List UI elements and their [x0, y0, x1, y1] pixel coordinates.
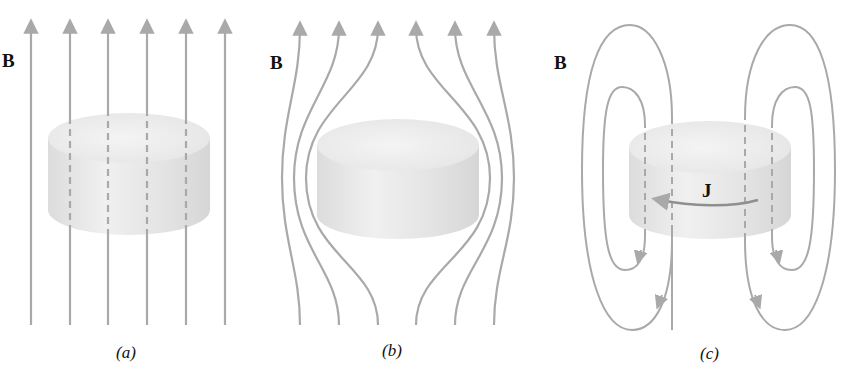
cylinder-b [317, 119, 479, 239]
field-label-a: B [2, 50, 15, 72]
panel-c [582, 25, 835, 330]
field-label-c: B [554, 52, 567, 74]
caption-b: (b) [382, 341, 402, 361]
figure: B (a) B (b) B J (c) [0, 0, 857, 373]
current-label-j: J [702, 180, 712, 202]
caption-a: (a) [116, 343, 136, 363]
panel-b [282, 28, 514, 325]
field-label-b: B [270, 52, 283, 74]
diagram-canvas [0, 0, 857, 373]
caption-c: (c) [700, 344, 719, 364]
panel-a [31, 26, 225, 325]
